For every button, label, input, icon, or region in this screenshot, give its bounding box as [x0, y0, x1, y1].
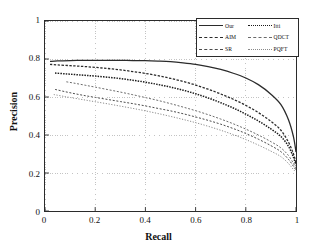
legend-line-sample	[199, 37, 223, 38]
legend-entry-itti: Itti	[248, 20, 297, 31]
series-curve-itti	[55, 73, 296, 165]
legend-line-sample	[248, 37, 272, 38]
legend-label: AIM	[225, 34, 236, 40]
x-tick-label: 0.6	[190, 215, 201, 225]
y-tick-label: 0.2	[18, 169, 40, 179]
legend-line-sample	[248, 25, 272, 26]
legend-label: SR	[225, 46, 232, 52]
chart-legend: OurIttiAIMQDCTSRPQFT	[196, 18, 299, 57]
y-axis-title: Precision	[8, 72, 19, 152]
y-tick-label: 1	[18, 15, 40, 25]
legend-label: PQFT	[274, 46, 288, 52]
x-tick-label: 1	[295, 215, 300, 225]
y-tick-label: 0	[18, 207, 40, 217]
legend-line-sample	[248, 49, 272, 50]
legend-entry-sr: SR	[199, 44, 248, 55]
y-tick-label: 0.6	[18, 92, 40, 102]
legend-entry-aim: AIM	[199, 32, 248, 43]
legend-line-sample	[199, 49, 223, 50]
precision-recall-chart: Precision 00.20.40.60.81 00.20.40.60.81 …	[0, 0, 317, 250]
series-curve-aim	[50, 64, 296, 163]
x-axis-title: Recall	[0, 231, 317, 242]
legend-entry-qdct: QDCT	[248, 32, 297, 43]
legend-label: QDCT	[274, 34, 290, 40]
legend-line-sample	[199, 25, 223, 26]
x-tick-label: 0	[42, 215, 47, 225]
legend-entry-pqft: PQFT	[248, 44, 297, 55]
series-curve-pqft	[54, 95, 296, 173]
x-tick-label: 0.2	[89, 215, 100, 225]
legend-entry-our: Our	[199, 20, 248, 31]
y-tick-label: 0.8	[18, 53, 40, 63]
legend-label: Itti	[274, 23, 281, 29]
series-curve-sr	[55, 89, 296, 170]
y-tick-label: 0.4	[18, 130, 40, 140]
series-curve-qdct	[66, 82, 296, 169]
x-tick-label: 0.8	[241, 215, 252, 225]
x-tick-label: 0.4	[140, 215, 151, 225]
series-curve-our	[50, 60, 296, 152]
legend-label: Our	[225, 23, 234, 29]
